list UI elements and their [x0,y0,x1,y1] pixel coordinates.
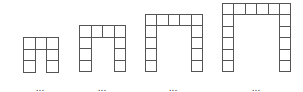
unit-square [23,60,36,73]
ellipsis-label: ... [98,84,107,92]
arch-sequence-diagram: ............ [0,0,303,92]
unit-square [46,60,59,73]
unit-square [191,60,203,72]
ellipsis-label: ... [36,84,45,92]
unit-square [79,60,92,73]
unit-square [145,60,157,72]
unit-square [222,60,234,72]
unit-square [114,60,127,73]
ellipsis-label: ... [252,84,261,92]
unit-square [279,60,291,72]
ellipsis-label: ... [169,84,178,92]
